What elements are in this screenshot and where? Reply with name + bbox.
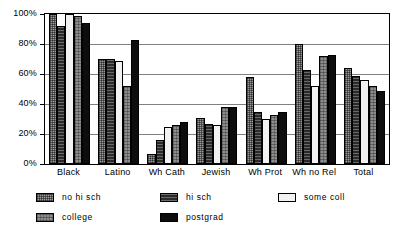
legend-swatch-no-hi-sch — [36, 193, 54, 202]
bar — [344, 68, 352, 164]
y-tick-label: 60% — [18, 69, 37, 78]
bar — [360, 80, 368, 164]
x-tick-label: Wh Prot — [241, 167, 290, 178]
bar — [352, 76, 360, 165]
bar-group — [291, 14, 340, 164]
legend-swatch-postgrad — [160, 213, 178, 222]
bar — [180, 122, 188, 164]
y-tick-label: 0% — [24, 159, 37, 168]
bar — [229, 107, 237, 164]
legend-entry: no hi sch — [36, 192, 101, 202]
bar-chart: 0%20%40%60%80%100% BlackLatinoWh CathJew… — [0, 0, 397, 239]
bar — [172, 125, 180, 164]
y-axis: 0%20%40%60%80%100% — [0, 0, 44, 166]
bar — [196, 118, 204, 165]
bar — [328, 55, 336, 165]
bar-group — [94, 14, 143, 164]
bar — [369, 86, 377, 164]
bar — [205, 124, 213, 165]
bar — [74, 16, 82, 165]
x-tick-label: Black — [44, 167, 93, 178]
bar-group — [242, 14, 291, 164]
legend-label: postgrad — [186, 212, 223, 222]
bar-group — [45, 14, 94, 164]
bar — [164, 127, 172, 165]
bar — [377, 91, 385, 165]
y-tick-label: 80% — [18, 39, 37, 48]
bar — [303, 70, 311, 165]
x-tick-label: Wh Cath — [142, 167, 191, 178]
bar — [254, 112, 262, 165]
y-tick-label: 40% — [18, 99, 37, 108]
bar — [270, 115, 278, 165]
bar — [278, 112, 286, 165]
legend-entry: college — [36, 212, 93, 222]
legend-swatch-hi-sch — [160, 193, 178, 202]
bar-group — [143, 14, 192, 164]
bar — [123, 86, 131, 164]
bar — [262, 119, 270, 164]
x-axis: BlackLatinoWh CathJewishWh ProtWh no Rel… — [44, 167, 390, 181]
bar — [246, 77, 254, 164]
bar — [295, 44, 303, 164]
legend-label: some coll — [304, 192, 345, 202]
bars-layer — [45, 14, 389, 164]
legend-entry: some coll — [278, 192, 345, 202]
legend-entry: postgrad — [160, 212, 223, 222]
bar — [311, 86, 319, 164]
x-tick-label: Wh no Rel — [290, 167, 339, 178]
legend-entry: hi sch — [160, 192, 212, 202]
bar — [319, 56, 327, 164]
legend-swatch-some-coll — [278, 193, 296, 202]
legend-swatch-college — [36, 213, 54, 222]
x-tick-label: Latino — [93, 167, 142, 178]
legend-label: college — [62, 212, 93, 222]
y-tick-label: 20% — [18, 129, 37, 138]
x-tick-label: Jewish — [191, 167, 240, 178]
bar-group — [340, 14, 389, 164]
x-tick-label: Total — [339, 167, 388, 178]
legend-label: hi sch — [186, 192, 212, 202]
bar — [213, 125, 221, 164]
bar — [221, 107, 229, 164]
bar — [156, 140, 164, 164]
bar — [82, 23, 90, 164]
legend-label: no hi sch — [62, 192, 101, 202]
chart-legend: no hi schhi schsome collcollegepostgrad — [0, 190, 397, 236]
bar — [57, 26, 65, 164]
bar — [49, 14, 57, 164]
bar — [98, 59, 106, 164]
bar — [147, 154, 155, 165]
y-tick-label: 100% — [13, 9, 37, 18]
bar-group — [192, 14, 241, 164]
bar — [131, 40, 139, 165]
bar — [65, 14, 73, 164]
bar — [115, 61, 123, 165]
bar — [106, 59, 114, 164]
